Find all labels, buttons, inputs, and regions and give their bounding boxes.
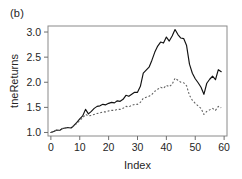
x-tick-label: 10: [74, 141, 86, 153]
line-chart: 01020304050601.01.52.02.53.0IndextneRetu…: [0, 0, 242, 179]
y-tick-label: 3.0: [26, 26, 41, 38]
x-tick-label: 40: [161, 141, 173, 153]
x-tick-label: 50: [189, 141, 201, 153]
series-line-dashed: [51, 78, 221, 132]
x-tick-label: 0: [48, 141, 54, 153]
x-axis-label: Index: [124, 159, 151, 171]
y-tick-label: 2.5: [26, 51, 41, 63]
y-tick-label: 1.5: [26, 101, 41, 113]
y-tick-label: 1.0: [26, 126, 41, 138]
plot-frame: [48, 26, 227, 136]
y-tick-label: 2.0: [26, 76, 41, 88]
series-line-solid: [51, 30, 221, 133]
x-tick-label: 30: [132, 141, 144, 153]
figure-panel: (b) 01020304050601.01.52.02.53.0Indextne…: [0, 0, 242, 179]
x-tick-label: 20: [103, 141, 115, 153]
y-axis-label: tneReturns: [8, 54, 20, 108]
x-tick-label: 60: [218, 141, 230, 153]
